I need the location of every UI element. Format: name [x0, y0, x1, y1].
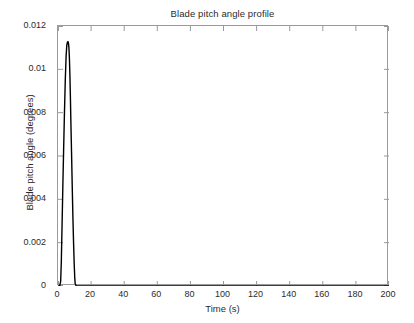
x-tick-label: 200	[380, 289, 395, 299]
y-tick-label: 0.012	[23, 20, 52, 30]
x-axis-tick-labels: 020406080100120140160180200	[57, 289, 388, 303]
x-tick-label: 140	[281, 289, 296, 299]
series-line-blade-pitch-angle	[58, 42, 389, 286]
x-tick-label: 160	[314, 289, 329, 299]
x-tick-label: 20	[85, 289, 95, 299]
y-tick-label: 0	[41, 280, 52, 290]
x-tick-label: 0	[54, 289, 59, 299]
x-tick-label: 80	[184, 289, 194, 299]
tick-marks	[58, 26, 389, 286]
x-tick-label: 100	[215, 289, 230, 299]
figure: Blade pitch angle profile 00.0020.0040.0…	[0, 0, 414, 323]
chart-title: Blade pitch angle profile	[57, 8, 388, 19]
x-tick-label: 120	[248, 289, 263, 299]
x-tick-label: 180	[347, 289, 362, 299]
x-tick-label: 40	[118, 289, 128, 299]
x-tick-label: 60	[151, 289, 161, 299]
plot-area	[57, 25, 388, 285]
x-axis-label: Time (s)	[57, 303, 388, 314]
plot-svg	[58, 26, 389, 286]
y-axis-label: Blade pitch angle (degrees)	[24, 63, 35, 243]
